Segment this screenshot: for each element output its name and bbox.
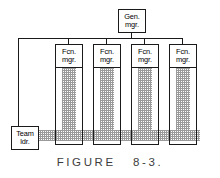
node-fcn-mgr-1-line2: mgr.: [62, 56, 76, 64]
functional-channel-4: [169, 68, 197, 145]
node-fcn-mgr-4[interactable]: Fcn. mgr.: [169, 44, 197, 68]
node-gen-mgr[interactable]: Gen. mgr.: [118, 9, 146, 33]
node-fcn-mgr-3-line2: mgr.: [138, 56, 152, 64]
functional-channel-3: [131, 68, 159, 145]
node-fcn-mgr-2[interactable]: Fcn. mgr.: [93, 44, 121, 68]
node-team-ldr-line2: ldr.: [20, 138, 29, 146]
node-gen-mgr-line2: mgr.: [125, 21, 139, 29]
node-fcn-mgr-3[interactable]: Fcn. mgr.: [131, 44, 159, 68]
connector-bus: [18, 38, 183, 39]
matrix-organization-chart: Gen. mgr. Fcn. mgr. Fcn. mgr. Fcn. mgr. …: [0, 0, 220, 178]
figure-caption: FIGURE 8-3.: [0, 156, 220, 168]
node-team-ldr[interactable]: Team ldr.: [11, 126, 39, 150]
functional-channel-2: [93, 68, 121, 145]
node-fcn-mgr-2-line2: mgr.: [100, 56, 114, 64]
functional-channel-1: [55, 68, 83, 145]
connector-bus-to-teamldr: [18, 38, 19, 127]
node-fcn-mgr-4-line2: mgr.: [176, 56, 190, 64]
node-fcn-mgr-1[interactable]: Fcn. mgr.: [55, 44, 83, 68]
